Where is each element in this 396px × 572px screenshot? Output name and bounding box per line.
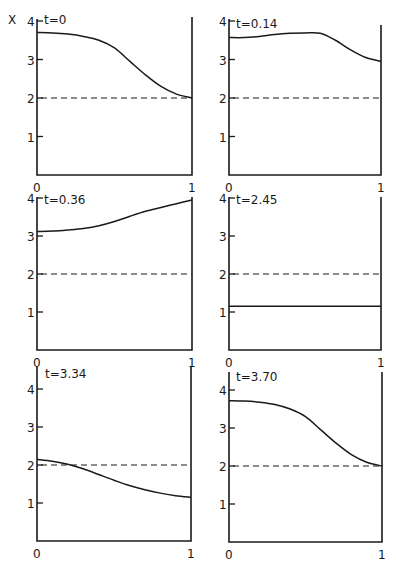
- y-tick-label: 2: [27, 92, 35, 106]
- x-tick-label: 1: [378, 548, 386, 562]
- solution-curve: [229, 33, 381, 62]
- panel-6: 123401t=3.70: [219, 370, 386, 562]
- y-tick-label: 4: [219, 192, 227, 206]
- y-tick-label: 2: [219, 92, 227, 106]
- x-tick-label: 0: [225, 548, 233, 562]
- solution-curve: [229, 401, 382, 466]
- panel-1: 123401t=0: [27, 13, 196, 195]
- y-tick-label: 3: [219, 422, 227, 436]
- y-tick-label: 1: [219, 306, 227, 320]
- panel-time-label: t=0: [44, 13, 66, 27]
- x-tick-label: 1: [188, 356, 196, 370]
- panel-time-label: t=3.34: [45, 367, 86, 381]
- panel-time-label: t=0.14: [236, 17, 277, 31]
- panel-2: 123401t=0.14: [219, 15, 385, 195]
- y-tick-label: 4: [27, 192, 35, 206]
- x-tick-label: 1: [188, 181, 196, 195]
- y-tick-label: 2: [219, 268, 227, 282]
- figure-grid: X 123401t=0123401t=0.14123401t=0.3612340…: [0, 0, 396, 572]
- y-tick-label: 1: [219, 498, 227, 512]
- y-tick-label: 4: [27, 383, 35, 397]
- y-tick-label: 1: [27, 497, 35, 511]
- x-tick-label: 1: [377, 181, 385, 195]
- panel-3: 123401t=0.36: [27, 192, 196, 370]
- solution-curve: [37, 33, 192, 98]
- axis-frame: [229, 372, 382, 542]
- y-tick-label: 3: [27, 421, 35, 435]
- y-tick-label: 2: [219, 460, 227, 474]
- axis-frame: [229, 19, 381, 175]
- x-tick-label: 0: [33, 547, 41, 561]
- x-tick-label: 0: [225, 356, 233, 370]
- x-tick-label: 1: [187, 547, 195, 561]
- y-tick-label: 4: [219, 384, 227, 398]
- x-tick-label: 1: [377, 356, 385, 370]
- y-tick-label: 4: [219, 15, 227, 29]
- panel-time-label: t=2.45: [236, 193, 277, 207]
- y-tick-label: 2: [27, 268, 35, 282]
- panel-time-label: t=3.70: [236, 370, 277, 384]
- panel-4: 123401t=2.45: [219, 192, 385, 370]
- y-tick-label: 2: [27, 459, 35, 473]
- y-tick-label: 3: [27, 54, 35, 68]
- y-tick-label: 4: [27, 15, 35, 29]
- axis-frame: [37, 17, 192, 175]
- y-axis-label: X: [8, 13, 16, 27]
- y-tick-label: 3: [27, 230, 35, 244]
- y-tick-label: 3: [219, 54, 227, 68]
- axis-frame: [37, 366, 191, 541]
- y-tick-label: 1: [27, 131, 35, 145]
- y-tick-label: 1: [27, 306, 35, 320]
- panel-time-label: t=0.36: [44, 193, 85, 207]
- small-multiples-chart: X 123401t=0123401t=0.14123401t=0.3612340…: [0, 0, 396, 572]
- panels: 123401t=0123401t=0.14123401t=0.36123401t…: [27, 13, 386, 562]
- y-tick-label: 3: [219, 230, 227, 244]
- y-tick-label: 1: [219, 131, 227, 145]
- panel-5: 123401t=3.34: [27, 366, 195, 561]
